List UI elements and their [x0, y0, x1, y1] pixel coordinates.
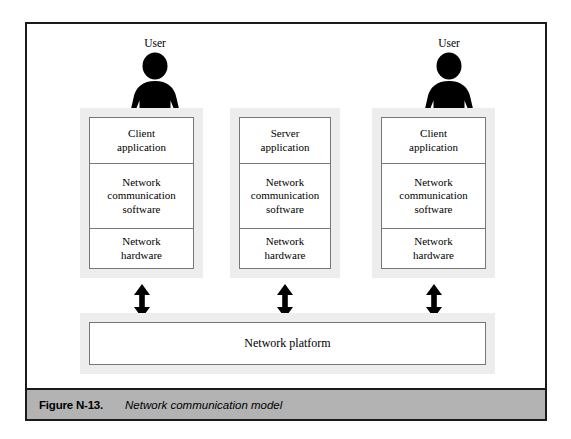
cell-line-2: communication — [251, 189, 319, 201]
cell-line-2: communication — [107, 189, 175, 201]
cell-line-2: application — [409, 141, 458, 153]
cell-line-3: software — [266, 203, 304, 215]
cell-network-hardware-left: Network hardware — [90, 229, 193, 268]
stack-inner-client-left: Client application Network communication… — [89, 117, 194, 269]
cell-line-1: Network — [266, 235, 305, 247]
cell-line-1: Network — [414, 176, 453, 188]
cell-network-hardware-middle: Network hardware — [240, 229, 330, 268]
diagram-area: User User Client — [27, 24, 545, 392]
cell-line-1: Client — [420, 127, 447, 139]
user-label-right: User — [409, 36, 489, 50]
cell-network-communication-software-right: Network communication software — [382, 164, 485, 229]
cell-line-1: Network — [266, 176, 305, 188]
cell-line-3: software — [123, 203, 161, 215]
network-platform-box: Network platform — [89, 322, 486, 365]
figure-root: User User Client — [0, 0, 571, 439]
cell-line-2: hardware — [265, 249, 306, 261]
cell-line-3: software — [415, 203, 453, 215]
cell-line-2: hardware — [413, 249, 454, 261]
network-platform-shadow: Network platform — [80, 313, 495, 374]
figure-caption-number: Figure N-13. — [39, 399, 103, 411]
cell-line-2: application — [117, 141, 166, 153]
network-platform-label: Network platform — [244, 336, 330, 351]
user-group-left: User — [115, 36, 195, 114]
cell-network-hardware-right: Network hardware — [382, 229, 485, 268]
cell-line-2: hardware — [121, 249, 162, 261]
figure-caption-text: Network communication model — [125, 399, 282, 411]
user-label-left: User — [115, 36, 195, 50]
user-person-icon — [125, 52, 185, 114]
cell-network-communication-software-left: Network communication software — [90, 164, 193, 229]
cell-client-application-left: Client application — [90, 118, 193, 164]
user-group-right: User — [409, 36, 489, 114]
user-person-icon — [419, 52, 479, 114]
stack-inner-client-right: Client application Network communication… — [381, 117, 486, 269]
cell-line-1: Server — [271, 127, 300, 139]
cell-line-1: Network — [414, 235, 453, 247]
stack-column-client-left: Client application Network communication… — [80, 108, 203, 278]
stack-column-client-right: Client application Network communication… — [372, 108, 495, 278]
cell-server-application-middle: Server application — [240, 118, 330, 164]
cell-line-1: Network — [122, 235, 161, 247]
stack-column-server-middle: Server application Network communication… — [230, 108, 340, 278]
figure-frame: User User Client — [25, 22, 547, 421]
cell-client-application-right: Client application — [382, 118, 485, 164]
stack-inner-server-middle: Server application Network communication… — [239, 117, 331, 269]
cell-line-1: Network — [122, 176, 161, 188]
cell-line-2: communication — [399, 189, 467, 201]
cell-line-2: application — [261, 141, 310, 153]
figure-caption-bar: Figure N-13. Network communication model — [27, 388, 545, 419]
cell-network-communication-software-middle: Network communication software — [240, 164, 330, 229]
cell-line-1: Client — [128, 127, 155, 139]
